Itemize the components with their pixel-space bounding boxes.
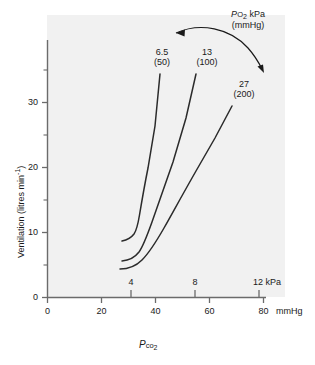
- curve-po2-13: [122, 74, 196, 261]
- direction-arrow-head-right: [258, 65, 265, 74]
- x-axis-unit-mmhg: mmHg: [276, 307, 303, 316]
- x-axis-title-co: co: [146, 341, 154, 350]
- curve-label-13-kpa: 13: [202, 47, 212, 57]
- curve-label-27-mmhg: (200): [224, 90, 264, 99]
- curve-label-6-5-kpa: 6.5: [156, 47, 169, 57]
- x-tick-label-80: 80: [252, 307, 276, 316]
- y-axis-title-text: Ventilation (litres min: [16, 175, 26, 258]
- legend-unit-kpa: kPa: [247, 9, 265, 19]
- curve-label-27: 27 (200): [224, 80, 264, 99]
- legend-title-line1: PO2 kPa: [231, 9, 265, 19]
- x-axis-title-sub: 2: [154, 344, 158, 351]
- x-axis-kpa-ticks: [131, 290, 259, 298]
- legend-o-sub: 2: [243, 13, 247, 20]
- x-kpa-label-12: 12 kPa: [253, 278, 281, 287]
- y-axis-title-exponent: -1: [14, 169, 21, 175]
- x-kpa-label-8: 8: [183, 278, 207, 287]
- x-axis-title: Pco2: [139, 339, 158, 350]
- legend-title-line2: (mmHg): [216, 21, 280, 30]
- y-tick-label-0: 0: [20, 293, 38, 302]
- x-tick-label-60: 60: [198, 307, 222, 316]
- curve-label-27-kpa: 27: [239, 79, 249, 89]
- legend-title: PO2 kPa (mmHg): [216, 10, 280, 30]
- y-tick-label-30: 30: [20, 98, 38, 107]
- x-axis-mmhg-ticks: [48, 298, 264, 304]
- curve-po2-27: [120, 106, 232, 269]
- y-axis-title: Ventilation (litres min-1): [16, 166, 26, 258]
- x-tick-label-0: 0: [36, 307, 60, 316]
- ventilation-pco2-response-chart: 30 20 10 0 Ventilation (litres min-1) 0 …: [0, 0, 315, 365]
- curve-label-13-mmhg: (100): [187, 58, 227, 67]
- x-kpa-label-4: 4: [119, 278, 143, 287]
- x-tick-label-40: 40: [144, 307, 168, 316]
- curve-label-6-5: 6.5 (50): [142, 48, 182, 67]
- x-axis-title-p: P: [139, 339, 146, 350]
- curve-label-13: 13 (100): [187, 48, 227, 67]
- x-tick-label-20: 20: [90, 307, 114, 316]
- curve-label-6-5-mmhg: (50): [142, 58, 182, 67]
